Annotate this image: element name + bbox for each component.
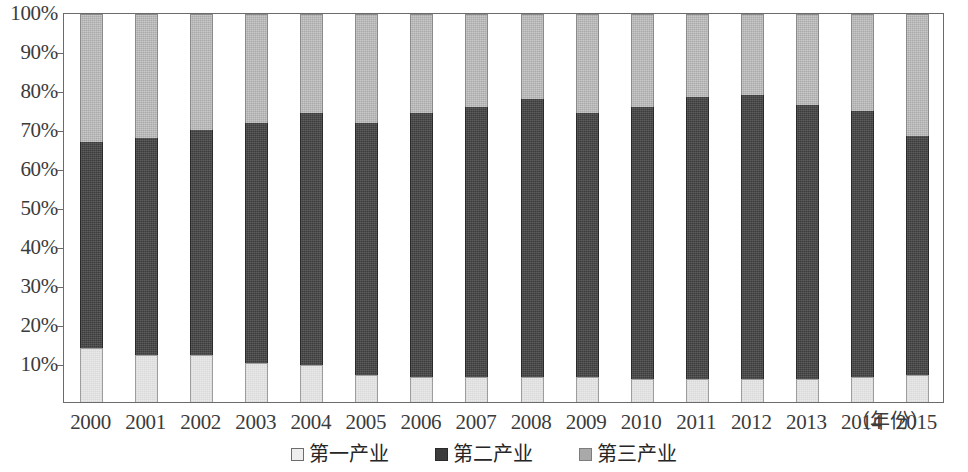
bar-segment-secondary (796, 105, 819, 379)
x-axis-tick-label: 2003 (235, 410, 276, 434)
x-axis-tick-label: 2014 (841, 410, 882, 434)
bar-segment-primary (631, 379, 654, 402)
bar-segment-tertiary (245, 14, 268, 123)
y-axis-tick-label: 100% (10, 3, 58, 24)
bar-segment-secondary (576, 113, 599, 377)
bar-segment-primary (245, 363, 268, 402)
bar-2006 (410, 14, 433, 402)
bar-segment-primary (796, 379, 819, 402)
bar-segment-secondary (190, 130, 213, 355)
x-axis-tick-label: 2015 (896, 410, 937, 434)
y-axis-tick-label: 40% (20, 237, 58, 258)
legend-item-2[interactable]: 第二产业 (435, 444, 533, 464)
bar-segment-primary (741, 379, 764, 402)
bar-segment-tertiary (851, 14, 874, 111)
bar-segment-primary (190, 355, 213, 402)
bar-segment-tertiary (190, 14, 213, 130)
legend-item-1[interactable]: 第一产业 (291, 444, 389, 464)
y-axis-tick-label: 60% (20, 159, 58, 180)
gray-square-swatch (579, 448, 592, 461)
bar-segment-secondary (80, 142, 103, 348)
bar-2000 (80, 14, 103, 402)
bar-segment-secondary (631, 107, 654, 379)
y-axis-tick-label: 50% (20, 198, 58, 219)
bar-segment-tertiary (300, 14, 323, 113)
x-axis-tick-label: 2002 (180, 410, 221, 434)
bar-segment-secondary (851, 111, 874, 377)
x-axis-tick-label: 2005 (345, 410, 386, 434)
bar-2002 (190, 14, 213, 402)
x-axis-tick-label: 2006 (401, 410, 442, 434)
bar-segment-primary (686, 379, 709, 402)
bar-2010 (631, 14, 654, 402)
bar-segment-secondary (521, 99, 544, 376)
bar-segment-tertiary (796, 14, 819, 105)
bar-segment-secondary (245, 123, 268, 364)
x-axis-tick-label: 2008 (511, 410, 552, 434)
bar-2008 (521, 14, 544, 402)
bar-segment-tertiary (631, 14, 654, 107)
bar-segment-tertiary (741, 14, 764, 95)
bar-segment-tertiary (576, 14, 599, 113)
y-axis-tick-mark (57, 287, 64, 288)
y-axis-tick-label: 70% (20, 120, 58, 141)
bar-segment-tertiary (80, 14, 103, 142)
y-axis-tick-mark (57, 170, 64, 171)
chart-legend: 第一产业第二产业第三产业 (0, 444, 968, 464)
x-axis-tick-label: 2000 (70, 410, 111, 434)
legend-item-label: 第三产业 (597, 444, 677, 464)
x-axis-tick-label: 2011 (676, 410, 716, 434)
bar-2009 (576, 14, 599, 402)
dark-square-swatch (435, 448, 448, 461)
bar-segment-primary (410, 377, 433, 402)
bar-2012 (741, 14, 764, 402)
bar-2015 (906, 14, 929, 402)
bar-2013 (796, 14, 819, 402)
bar-segment-secondary (906, 136, 929, 375)
y-axis-tick-mark (57, 53, 64, 54)
plot-area (63, 13, 944, 403)
bar-segment-primary (851, 377, 874, 402)
bar-segment-secondary (741, 95, 764, 378)
y-axis: 100%90%80%70%60%50%40%30%20%10% (0, 0, 58, 472)
bar-segment-tertiary (135, 14, 158, 138)
light-square-swatch (291, 448, 304, 461)
bar-2014 (851, 14, 874, 402)
legend-item-3[interactable]: 第三产业 (579, 444, 677, 464)
legend-item-label: 第二产业 (453, 444, 533, 464)
x-axis-tick-label: 2004 (290, 410, 331, 434)
bar-segment-secondary (300, 113, 323, 365)
bar-segment-secondary (465, 107, 488, 377)
bar-2011 (686, 14, 709, 402)
bar-segment-primary (80, 348, 103, 402)
x-axis-tick-label: 2009 (566, 410, 607, 434)
bar-segment-primary (906, 375, 929, 402)
y-axis-tick-label: 30% (20, 276, 58, 297)
y-axis-tick-mark (57, 365, 64, 366)
y-axis-tick-mark (57, 131, 64, 132)
y-axis-tick-label: 20% (20, 315, 58, 336)
bar-segment-tertiary (465, 14, 488, 107)
bar-segment-primary (521, 377, 544, 402)
bar-segment-primary (135, 355, 158, 402)
bar-segment-secondary (135, 138, 158, 355)
bar-2004 (300, 14, 323, 402)
x-axis-tick-label: 2007 (456, 410, 497, 434)
bar-segment-tertiary (521, 14, 544, 99)
y-axis-tick-label: 80% (20, 81, 58, 102)
y-axis-tick-mark (57, 92, 64, 93)
x-axis-tick-label: 2010 (621, 410, 662, 434)
bar-segment-primary (576, 377, 599, 402)
bar-2003 (245, 14, 268, 402)
bar-2007 (465, 14, 488, 402)
bar-segment-tertiary (410, 14, 433, 113)
x-axis: （年份） 20002001200220032004200520062007200… (0, 410, 968, 440)
bar-segment-primary (465, 377, 488, 402)
y-axis-tick-mark (57, 209, 64, 210)
y-axis-tick-label: 90% (20, 42, 58, 63)
bar-2005 (355, 14, 378, 402)
bar-segment-tertiary (686, 14, 709, 97)
bar-2001 (135, 14, 158, 402)
x-axis-tick-label: 2001 (125, 410, 166, 434)
x-axis-tick-label: 2012 (731, 410, 772, 434)
